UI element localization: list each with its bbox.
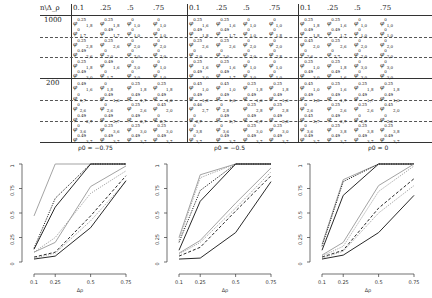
svg-text:Δρ: Δρ [77,287,84,294]
table-cell: φ0.491,7 [216,69,235,81]
svg-text:1: 1 [154,164,160,167]
table-cell: φ0.493,7 [300,133,319,145]
svg-text:0.75: 0.75 [265,279,276,285]
table-cell: φ0.493,7 [243,133,262,145]
column-header: .75 [153,4,164,14]
table-cell: φ0.493,0 [300,69,319,81]
svg-text:0.5: 0.5 [297,211,303,219]
dashed-separator [40,57,432,58]
column-header: .75 [269,4,280,14]
series-line [322,179,414,257]
column-header: .25 [100,4,111,14]
svg-text:0.5: 0.5 [9,211,15,219]
svg-text:0.75: 0.75 [120,279,131,285]
block-label-rho-0: ρ0 = 0 [368,144,388,151]
dashed-separator [40,37,432,38]
svg-text:0.75: 0.75 [408,279,419,285]
table-cell: φ03,0 [243,69,256,81]
table-cell: φ0.493,7 [127,133,146,145]
block-label-rho-neg05: ρ0 = −0.5 [214,144,245,151]
svg-text:Δρ: Δρ [222,287,229,294]
series-line [179,164,271,250]
table-cell: φ01,0 [153,69,166,81]
column-header: .5 [243,4,250,14]
column-header: 0.1 [300,4,311,14]
svg-text:0.1: 0.1 [30,279,38,285]
svg-text:0.75: 0.75 [297,185,303,196]
group-rule [40,78,432,79]
power-curve-chart: 00.250.50.7510.10.250.50.75Δρ [145,152,289,298]
series-line [34,164,126,216]
svg-text:0: 0 [9,262,15,265]
svg-text:0.5: 0.5 [375,279,383,285]
svg-text:0.25: 0.25 [50,279,61,285]
svg-text:0.25: 0.25 [297,234,303,245]
corner-label: n\Δ_ρ [40,4,60,14]
table-cell: φ0.493,0 [189,69,208,81]
series-line [34,182,126,258]
svg-text:1: 1 [9,164,15,167]
column-header: .25 [327,4,338,14]
row-group-label: 200 [46,79,59,87]
series-line [322,164,414,246]
results-table: n\Δ_ρ 1000 200 0.1.25.5.75φ0.251,8φ0.251… [40,4,432,144]
svg-text:0.75: 0.75 [9,185,15,196]
svg-text:0.5: 0.5 [232,279,240,285]
series-line [34,166,126,252]
header-rule [40,15,432,16]
table-cell: φ0.493,7 [269,133,288,145]
series-line [179,182,271,259]
table-cell: φ01,0 [269,69,282,81]
column-header: 0.1 [189,4,200,14]
series-line [179,176,271,256]
table-cell: φ0.493,0 [73,69,92,81]
power-curve-chart: 00.250.50.7510.10.250.50.75Δρ [288,152,432,298]
svg-text:Δρ: Δρ [365,287,372,294]
table-cell: φ03,0 [127,69,140,81]
svg-text:0: 0 [154,262,160,265]
column-header: .5 [354,4,361,14]
table-cell: φ03,0 [354,69,367,81]
svg-text:0.25: 0.25 [154,234,160,245]
table-cell: φ0.491,6 [327,69,346,81]
table-cell: φ0.493,7 [153,133,172,145]
column-header: .5 [127,4,134,14]
svg-text:0.25: 0.25 [195,279,206,285]
row-group-label: 1000 [44,16,62,24]
table-cell: φ03,0 [380,69,393,81]
column-header: .75 [380,4,391,14]
svg-text:0.1: 0.1 [175,279,183,285]
svg-text:0.25: 0.25 [9,234,15,245]
svg-text:0.75: 0.75 [154,185,160,196]
svg-text:0.5: 0.5 [87,279,95,285]
table-cell: φ0.493,7 [327,133,346,145]
svg-text:0.5: 0.5 [154,211,160,219]
table-cell: φ03,7 [189,133,202,145]
column-header: .25 [216,4,227,14]
svg-text:0: 0 [297,262,303,265]
series-line [322,166,414,256]
column-header: 0.1 [73,4,84,14]
series-line [179,172,271,254]
table-cell: φ01,7 [100,69,113,81]
series-line [34,181,126,259]
power-curve-chart: 00.250.50.7510.10.250.50.75Δρ [0,152,144,298]
svg-text:1: 1 [297,164,303,167]
svg-text:0.25: 0.25 [338,279,349,285]
dashed-separator [40,121,432,122]
block-label-rho-neg075: ρ0 = −0.75 [78,144,113,151]
svg-text:0.1: 0.1 [318,279,326,285]
